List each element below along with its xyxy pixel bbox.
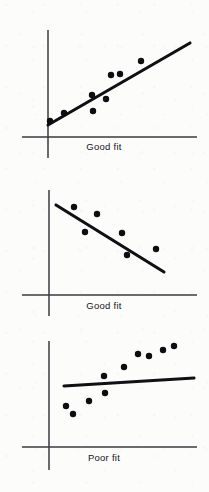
panel-2-data-points: [71, 204, 159, 258]
data-point: [135, 351, 141, 357]
data-point: [108, 72, 114, 78]
data-point: [90, 108, 96, 114]
data-point: [103, 96, 109, 102]
panel-good-fit-negative: [22, 190, 197, 316]
data-point: [171, 343, 177, 349]
data-point: [102, 390, 108, 396]
data-point: [119, 230, 125, 236]
data-point: [89, 92, 95, 98]
data-point: [153, 246, 159, 252]
data-point: [82, 229, 88, 235]
data-point: [138, 58, 144, 64]
panel-good-fit-positive: [22, 30, 197, 158]
data-point: [146, 353, 152, 359]
panel-1-caption: Good fit: [86, 141, 121, 152]
panel-2-regression-line: [56, 205, 164, 272]
data-point: [160, 347, 166, 353]
data-point: [70, 411, 76, 417]
data-point: [71, 204, 77, 210]
panel-1-regression-line: [48, 43, 190, 125]
panel-2-caption: Good fit: [86, 300, 121, 311]
panel-1-data-points: [47, 58, 144, 124]
panel-3-caption: Poor fit: [88, 452, 120, 463]
data-point: [63, 403, 69, 409]
data-point: [124, 252, 130, 258]
data-point: [94, 211, 100, 217]
panel-3-regression-line: [64, 378, 194, 386]
data-point: [86, 398, 92, 404]
scatter-plots-figure: [0, 0, 209, 492]
data-point: [117, 71, 123, 77]
data-point: [101, 373, 107, 379]
data-point: [61, 110, 67, 116]
data-point: [47, 118, 53, 124]
panel-poor-fit: [22, 341, 197, 470]
data-point: [121, 364, 127, 370]
